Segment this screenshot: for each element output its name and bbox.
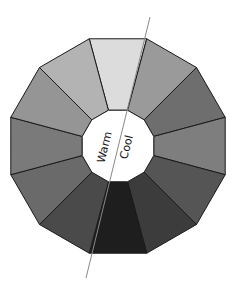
color-wheel-diagram: Warm Cool	[0, 0, 239, 295]
